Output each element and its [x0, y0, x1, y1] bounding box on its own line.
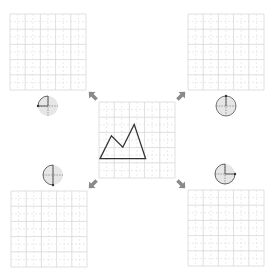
- target-grid-bottom-left: [11, 191, 87, 267]
- rotation-indicator-top-right-icon: [216, 95, 236, 116]
- arrow-down-left-icon: [86, 177, 100, 191]
- rotation-diagram: [0, 0, 273, 278]
- arrow-up-right-icon: [174, 89, 188, 103]
- center-grid: [99, 102, 175, 178]
- target-grid-top-right: [188, 14, 264, 90]
- rotation-indicator-bottom-left-icon: [43, 165, 63, 186]
- rotation-indicator-bottom-right-icon: [215, 164, 236, 184]
- target-grid-top-left: [10, 14, 86, 90]
- arrow-up-left-icon: [86, 89, 100, 103]
- diagram-canvas: [0, 0, 273, 278]
- target-grid-bottom-right: [188, 190, 264, 266]
- mountain-shape: [100, 124, 146, 158]
- rotation-indicator-top-left-icon: [37, 96, 58, 116]
- arrow-down-right-icon: [174, 177, 188, 191]
